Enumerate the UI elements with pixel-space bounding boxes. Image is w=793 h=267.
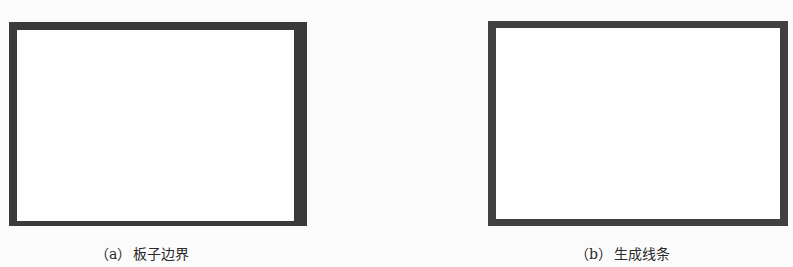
- caption-b: （b）生成线条: [575, 245, 670, 263]
- caption-b-label: （b）: [575, 246, 612, 262]
- board-boundary-rectangle: [9, 22, 307, 226]
- generated-lines-rectangle: [488, 21, 788, 226]
- caption-a: （a）板子边界: [95, 245, 189, 263]
- caption-b-text: 生成线条: [614, 246, 670, 262]
- caption-a-text: 板子边界: [133, 246, 189, 262]
- caption-a-label: （a）: [95, 246, 131, 262]
